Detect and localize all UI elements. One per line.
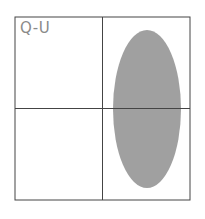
quadrant-label: Q-U bbox=[20, 19, 50, 37]
